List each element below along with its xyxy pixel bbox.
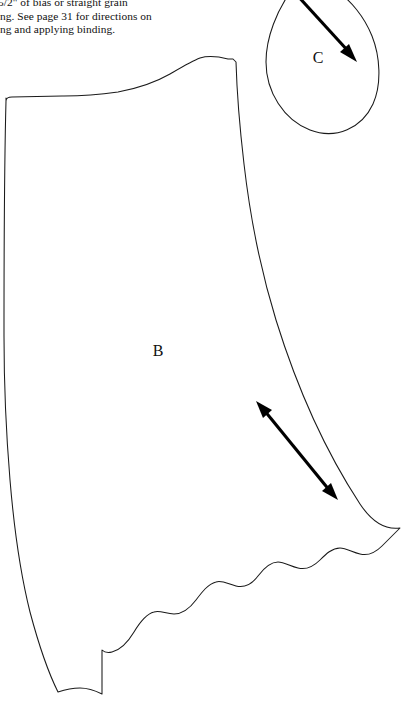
piece-b-label: B xyxy=(153,342,164,359)
pattern-drawing: C B xyxy=(0,0,407,723)
piece-c-outline xyxy=(266,0,379,134)
pattern-page: e 5/2" of bias or straight grain ding. S… xyxy=(0,0,407,723)
piece-c-label: C xyxy=(313,49,324,66)
piece-b-outline xyxy=(4,56,400,694)
